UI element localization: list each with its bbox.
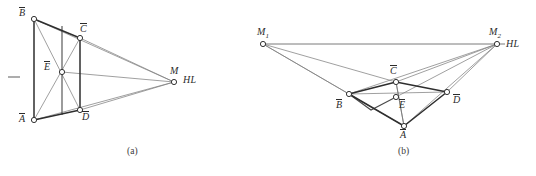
ray-C-M [80,38,174,82]
edge-D-A [404,92,447,126]
ray-M2-C [396,44,497,82]
label-b-M2-subscript: 2 [498,32,502,40]
label-b-M2: M2 [489,27,501,40]
edge-B-C [34,19,80,38]
panel-b-rays [263,44,497,126]
node-A-bar [31,117,36,122]
panel-b-nodes [260,41,499,128]
panel-b-quad [349,82,447,126]
ray-E-M [62,72,174,82]
label-b-E-bar: E [399,99,405,111]
ray-M1-C [263,44,396,82]
label-a-D-bar: D [82,111,89,123]
ray-M2-A [404,44,497,126]
ray-M2-B [349,44,497,94]
ray-A-M [34,82,174,120]
label-b-C-bar: C [390,65,397,77]
label-a-HL: HL [183,75,196,85]
node-B-bar [31,16,36,21]
label-b-B-bar: B [336,99,342,111]
label-b-A-bar: A [400,129,406,141]
panel-a-rays [34,19,174,120]
label-b-D-bar: D [453,94,460,106]
panel-a-quad [34,19,80,120]
edge-A-D [34,110,80,120]
panel-b-drawing [260,41,505,128]
panel-a-nodes [31,16,176,122]
label-a-E-bar: E [44,61,50,73]
label-a-M: M [170,66,179,76]
node-C-bar [77,35,82,40]
diagonal-A-C [34,38,80,120]
caption-panel-a: (a) [127,146,138,156]
label-b-M1-subscript: 1 [266,32,270,40]
node-E-bar [59,69,64,74]
node-C-bar [393,79,398,84]
label-b-M1: M1 [257,27,269,40]
panel-a-diagonals [34,19,80,120]
label-a-A-bar: A [19,113,25,125]
node-M2 [494,41,499,46]
ray-M2-D [447,44,497,92]
node-D-bar [444,89,449,94]
node-M1 [260,41,265,46]
label-a-B-bar: B [19,7,25,19]
edge-B-C [349,82,396,94]
label-a-C-bar: C [80,23,87,35]
node-A-bar [401,123,406,128]
diagonal-B-D [34,19,80,110]
panel-a-drawing [8,16,177,122]
caption-panel-b: (b) [398,146,409,156]
node-E-bar [393,94,398,99]
label-b-HL: HL [506,39,519,49]
figure-container: B C E M HL D A M1 M2 HL C E B D A (a) [0,0,536,176]
node-B-bar [346,91,351,96]
node-M [171,79,176,84]
